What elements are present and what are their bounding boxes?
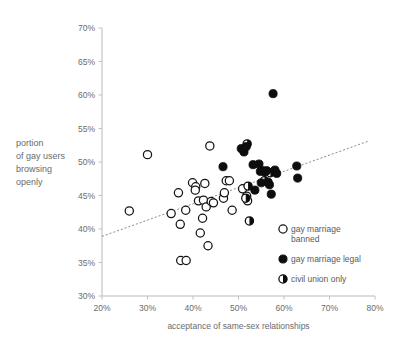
trend-line — [102, 141, 368, 236]
y-tick-label: 60% — [78, 90, 95, 100]
x-tick-label: 40% — [184, 303, 201, 313]
data-point — [174, 189, 182, 197]
data-point — [269, 90, 277, 98]
data-point — [293, 162, 301, 170]
data-point — [182, 206, 190, 214]
trendline — [102, 141, 368, 236]
x-tick-label: 60% — [275, 303, 292, 313]
data-point — [125, 207, 133, 215]
y-tick-label: 45% — [78, 191, 95, 201]
data-point — [294, 174, 302, 182]
data-point — [176, 220, 184, 228]
x-axis-title-text: acceptance of same-sex relationships — [167, 321, 309, 331]
legend-label: banned — [291, 234, 320, 244]
x-tick-label: 30% — [139, 303, 156, 313]
data-points — [125, 90, 302, 265]
data-point — [198, 214, 206, 222]
x-tick-label: 80% — [366, 303, 383, 313]
y-axis-title: portionof gay usersbrowsingopenly — [16, 138, 66, 187]
chart-legend: gay marriagebannedgay marriage legalcivi… — [279, 224, 361, 284]
y-tick-label: 55% — [78, 124, 95, 134]
data-point — [225, 177, 233, 185]
data-point — [265, 181, 273, 189]
data-point — [263, 167, 271, 175]
data-point — [242, 194, 250, 202]
legend-item-civil: civil union only — [279, 274, 347, 284]
data-point — [204, 242, 212, 250]
data-point — [196, 229, 204, 237]
x-tick-label: 70% — [321, 303, 338, 313]
legend-marker-open-circle — [279, 225, 287, 233]
chart-canvas: 30%35%40%45%50%55%60%65%70% 20%30%40%50%… — [0, 0, 395, 343]
y-axis-tick-labels: 30%35%40%45%50%55%60%65%70% — [78, 23, 95, 301]
data-point — [182, 256, 190, 264]
x-tick-label: 50% — [230, 303, 247, 313]
data-point — [245, 217, 253, 225]
data-point — [191, 186, 199, 194]
legend-label: gay marriage — [291, 224, 341, 234]
data-point — [143, 151, 151, 159]
series-open-circle — [125, 142, 251, 265]
legend-item-legal: gay marriage legal — [279, 254, 361, 264]
data-point — [167, 209, 175, 217]
data-point — [267, 190, 275, 198]
y-axis-title-line: openly — [16, 177, 43, 187]
legend-label: gay marriage legal — [291, 254, 361, 264]
x-axis-title: acceptance of same-sex relationships — [167, 321, 309, 331]
x-tick-label: 20% — [93, 303, 110, 313]
y-axis-title-line: of gay users — [16, 151, 66, 161]
data-point — [201, 179, 209, 187]
legend-label: civil union only — [291, 274, 347, 284]
y-tick-label: 35% — [78, 258, 95, 268]
y-axis-title-line: portion — [16, 138, 44, 148]
y-tick-label: 50% — [78, 157, 95, 167]
data-point — [220, 189, 228, 197]
data-point — [251, 186, 259, 194]
data-point — [219, 163, 227, 171]
data-point — [209, 199, 217, 207]
scatter-chart: 30%35%40%45%50%55%60%65%70% 20%30%40%50%… — [0, 0, 395, 343]
x-axis-tick-labels: 20%30%40%50%60%70%80% — [93, 303, 383, 313]
y-tick-label: 30% — [78, 291, 95, 301]
legend-marker-half-filled-circle — [279, 275, 287, 283]
legend-marker-filled-circle — [279, 255, 287, 263]
y-tick-label: 70% — [78, 23, 95, 33]
data-point — [228, 206, 236, 214]
data-point — [257, 179, 265, 187]
y-axis-title-line: browsing — [16, 164, 52, 174]
y-tick-label: 40% — [78, 224, 95, 234]
data-point — [206, 142, 214, 150]
data-point — [242, 142, 250, 150]
data-point — [273, 169, 281, 177]
legend-item-banned: gay marriagebanned — [279, 224, 341, 244]
y-tick-label: 65% — [78, 57, 95, 67]
